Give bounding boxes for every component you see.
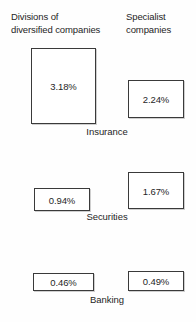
value-box-banking-specialist: 0.49%: [128, 271, 184, 291]
category-label-securities: Securities: [47, 211, 167, 222]
value-label-securities-specialist: 1.67%: [129, 185, 183, 196]
value-label-insurance-specialist: 2.24%: [129, 94, 183, 105]
category-label-banking: Banking: [47, 294, 167, 305]
value-label-banking-specialist: 0.49%: [129, 276, 183, 287]
value-label-securities-divisions: 0.94%: [35, 194, 89, 205]
comparison-figure: Divisions of diversified companies Speci…: [0, 0, 196, 322]
category-label-insurance: Insurance: [47, 126, 167, 137]
value-box-securities-divisions: 0.94%: [34, 188, 90, 211]
value-label-banking-divisions: 0.46%: [34, 277, 93, 288]
value-box-insurance-specialist: 2.24%: [128, 80, 184, 118]
value-box-insurance-divisions: 3.18%: [31, 48, 96, 124]
value-label-insurance-divisions: 3.18%: [32, 81, 95, 92]
value-box-banking-divisions: 0.46%: [33, 273, 94, 291]
column-header-specialist: Specialist companies: [126, 11, 192, 36]
column-header-divisions: Divisions of diversified companies: [11, 11, 111, 36]
value-box-securities-specialist: 1.67%: [128, 172, 184, 209]
